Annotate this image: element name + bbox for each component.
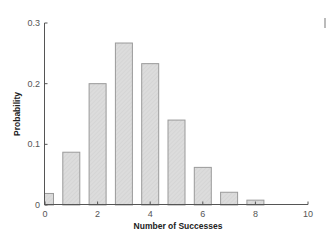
bar-4 bbox=[142, 64, 159, 205]
x-tick-label: 10 bbox=[303, 209, 313, 219]
bar-7 bbox=[221, 192, 238, 205]
bar-chart: 00.10.20.3 0246810 Probability Number of… bbox=[0, 0, 326, 244]
x-tick-label: 2 bbox=[95, 209, 100, 219]
y-tick-label: 0.2 bbox=[27, 79, 40, 89]
y-tick-label: 0.3 bbox=[27, 18, 40, 28]
x-tick-label: 8 bbox=[253, 209, 258, 219]
bar-3 bbox=[115, 43, 132, 205]
bar-5 bbox=[168, 120, 185, 205]
bar-6 bbox=[194, 167, 211, 205]
x-tick-label: 0 bbox=[42, 209, 47, 219]
x-tick-label: 4 bbox=[148, 209, 153, 219]
bar-1 bbox=[63, 152, 80, 205]
bar-2 bbox=[89, 84, 106, 205]
x-tick-label: 6 bbox=[200, 209, 205, 219]
x-axis-title: Number of Successes bbox=[134, 221, 223, 231]
y-axis-title: Probability bbox=[12, 92, 22, 136]
y-tick-label: 0.1 bbox=[27, 139, 40, 149]
x-axis: 0246810 bbox=[42, 202, 313, 220]
y-axis: 00.10.20.3 bbox=[27, 18, 47, 210]
y-tick-label: 0 bbox=[35, 200, 40, 210]
bar-series bbox=[37, 43, 264, 205]
